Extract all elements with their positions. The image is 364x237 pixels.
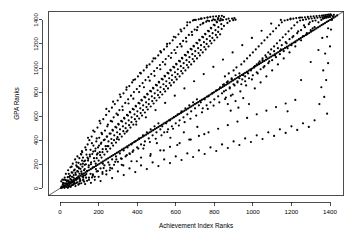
data-point: [285, 102, 287, 104]
data-point: [158, 81, 160, 83]
data-point: [79, 168, 81, 170]
data-point: [133, 113, 135, 115]
data-point: [103, 164, 105, 166]
data-point: [101, 151, 103, 153]
data-point: [98, 176, 100, 178]
data-point: [155, 131, 157, 133]
data-point: [240, 63, 242, 65]
data-point: [86, 180, 88, 182]
data-point: [100, 141, 102, 143]
data-point: [203, 17, 205, 19]
data-point: [326, 36, 328, 38]
data-point: [157, 94, 159, 96]
data-point: [201, 111, 203, 113]
data-point: [85, 154, 87, 156]
data-point: [126, 154, 128, 156]
data-point: [202, 36, 204, 38]
data-point: [137, 148, 139, 150]
data-point: [90, 163, 92, 165]
data-point: [94, 148, 96, 150]
data-point: [148, 103, 150, 105]
data-point: [188, 34, 190, 36]
data-point: [178, 124, 180, 126]
data-point: [188, 104, 190, 106]
data-point: [142, 109, 144, 111]
data-point: [98, 137, 100, 139]
data-point: [162, 83, 164, 85]
data-point: [144, 79, 146, 81]
data-point: [300, 79, 302, 81]
data-point: [130, 121, 132, 123]
data-point: [186, 113, 188, 115]
data-point: [152, 102, 154, 104]
data-point: [136, 160, 138, 162]
data-point: [73, 174, 75, 176]
data-point: [163, 88, 165, 90]
data-point: [162, 61, 164, 63]
data-point: [251, 37, 253, 39]
data-point: [216, 36, 218, 38]
data-point: [299, 16, 301, 18]
data-point: [111, 158, 113, 160]
data-point: [125, 86, 127, 88]
data-point: [70, 186, 72, 188]
data-point: [321, 37, 323, 39]
data-point: [135, 120, 137, 122]
data-point: [111, 167, 113, 169]
data-point: [81, 175, 83, 177]
data-point: [288, 38, 290, 40]
data-point: [234, 100, 236, 102]
data-point: [214, 24, 216, 26]
data-point: [185, 54, 187, 56]
data-point: [111, 120, 113, 122]
data-point: [170, 69, 172, 71]
data-point: [159, 50, 161, 52]
data-point: [167, 87, 169, 89]
data-point: [106, 145, 108, 147]
data-point: [294, 99, 296, 101]
data-point: [111, 107, 113, 109]
data-point: [279, 53, 281, 55]
data-point: [193, 80, 195, 82]
data-point: [302, 19, 304, 21]
data-point: [203, 133, 205, 135]
y-tick-label: 0: [32, 186, 39, 190]
data-point: [183, 87, 185, 89]
data-point: [105, 170, 107, 172]
data-point: [80, 163, 82, 165]
data-point: [207, 108, 209, 110]
data-point: [67, 169, 69, 171]
data-point: [159, 149, 161, 151]
data-point: [180, 159, 182, 161]
data-point: [311, 17, 313, 19]
data-point: [78, 173, 80, 175]
data-point: [308, 18, 310, 20]
data-point: [322, 69, 324, 71]
data-point: [99, 122, 101, 124]
data-point: [141, 82, 143, 84]
data-point: [330, 28, 332, 30]
data-point: [234, 19, 236, 21]
data-point: [118, 123, 120, 125]
data-point: [187, 51, 189, 53]
data-point: [125, 127, 127, 129]
data-point: [188, 56, 190, 58]
data-point: [114, 161, 116, 163]
data-point: [196, 42, 198, 44]
data-point: [223, 90, 225, 92]
data-point: [256, 134, 258, 136]
data-point: [177, 33, 179, 35]
data-point: [186, 24, 188, 26]
data-point: [229, 87, 231, 89]
data-point: [91, 153, 93, 155]
data-point: [149, 80, 151, 82]
data-point: [153, 125, 155, 127]
data-point: [216, 21, 218, 23]
data-point: [299, 19, 301, 21]
data-point: [182, 116, 184, 118]
y-tick-label: 400: [32, 134, 39, 145]
data-point: [197, 47, 199, 49]
data-point: [169, 162, 171, 164]
data-point: [113, 164, 115, 166]
data-point: [294, 45, 296, 47]
